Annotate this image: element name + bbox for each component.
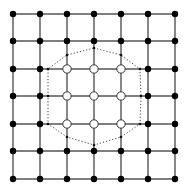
filled-node [145,38,151,44]
filled-node [37,121,43,127]
filled-node [145,11,151,17]
boundary-vertex-dot [139,68,142,71]
filled-node [10,38,16,44]
filled-node [37,93,43,99]
filled-node [37,38,43,44]
filled-node [145,148,151,154]
filled-node [91,176,97,182]
filled-node [64,38,70,44]
filled-node [172,93,178,99]
lattice-diagram [0,0,188,191]
boundary-vertex-dot [47,68,50,71]
filled-node [10,66,16,72]
filled-node [10,93,16,99]
filled-node [145,66,151,72]
filled-node [37,11,43,17]
filled-node [145,93,151,99]
open-node [90,92,98,100]
filled-node [64,11,70,17]
filled-node [118,11,124,17]
boundary-vertex-dot [93,144,96,147]
filled-node [91,38,97,44]
filled-node [37,176,43,182]
open-node [117,120,125,128]
open-node [63,92,71,100]
filled-node [172,176,178,182]
filled-node [172,38,178,44]
filled-node [91,11,97,17]
boundary-vertex-dot [120,54,123,57]
filled-node [172,121,178,127]
boundary-vertex-dot [47,95,50,98]
filled-node [91,148,97,154]
open-node [90,65,98,73]
filled-node [37,148,43,154]
filled-node [10,148,16,154]
filled-node [37,66,43,72]
open-node [117,92,125,100]
filled-node [10,176,16,182]
filled-node [64,148,70,154]
boundary-vertex-dot [139,123,142,126]
filled-node [118,148,124,154]
open-node [63,65,71,73]
filled-node [118,38,124,44]
filled-node [145,121,151,127]
boundary-vertex-dot [140,95,143,98]
filled-node [172,66,178,72]
filled-node [145,176,151,182]
boundary-vertex-dot [47,123,50,126]
filled-node [172,148,178,154]
boundary-vertex-dot [120,136,123,139]
open-node [63,120,71,128]
filled-node [10,121,16,127]
filled-node [172,11,178,17]
filled-node [118,176,124,182]
open-node [117,65,125,73]
boundary-vertex-dot [66,54,69,57]
open-node [90,120,98,128]
filled-node [10,11,16,17]
boundary-vertex-dot [66,136,69,139]
filled-node [64,176,70,182]
boundary-vertex-dot [93,47,96,50]
